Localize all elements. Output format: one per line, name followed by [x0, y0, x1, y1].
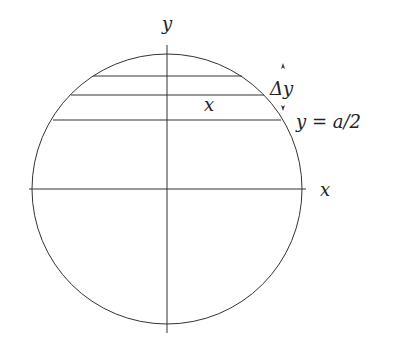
arrow-down-icon [281, 105, 285, 111]
boundary-label: y = a/2 [295, 111, 361, 132]
delta-y-label: Δy [269, 78, 294, 99]
x-axis-label: x [320, 179, 330, 200]
y-axis-label: y [161, 13, 173, 34]
strip-width-label: x [204, 94, 214, 115]
circle-diagram: y x x Δy y = a/2 [0, 0, 399, 347]
arrow-up-icon [281, 63, 285, 69]
